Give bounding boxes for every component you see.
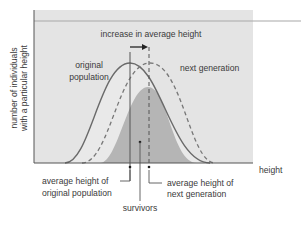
y-axis-label-line1: number of individuals [9,47,19,128]
avg-next-label-line2: next generation [167,189,226,199]
y-axis-label-line2: with a particular height [19,44,29,132]
survivors-label: survivors [123,203,157,213]
x-axis-label: height [259,165,283,175]
next-generation-label: next generation [180,63,239,73]
arrow-label: increase in average height [101,29,202,39]
avg-original-label-line2: original population [42,188,112,198]
selection-diagram: number of individuals with a particular … [0,0,301,225]
original-label-line2: population [69,72,109,82]
avg-next-label-line1: average height of [167,178,234,188]
original-label-line1: original [75,60,103,70]
avg-original-label-line1: average height of [42,176,109,186]
